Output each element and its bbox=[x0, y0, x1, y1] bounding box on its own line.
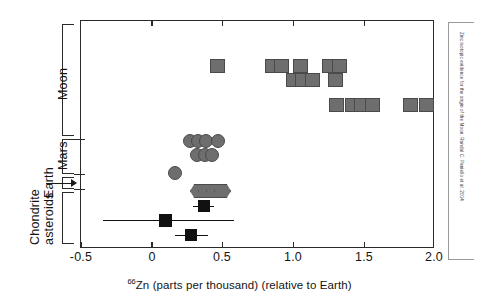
xtick-label-2.0: 2.0 bbox=[425, 250, 443, 264]
group-label-mars: Mars bbox=[56, 141, 70, 170]
xtick-label-1.5: 1.5 bbox=[355, 250, 373, 264]
data-point-chondrite bbox=[198, 200, 210, 212]
data-point-moon bbox=[403, 98, 418, 112]
data-point-moon bbox=[274, 59, 289, 73]
xtick-label-0: 0 bbox=[148, 250, 155, 264]
data-point-moon bbox=[293, 59, 308, 73]
data-point-moon bbox=[305, 73, 320, 87]
data-point-moon bbox=[210, 59, 225, 73]
data-point-moon bbox=[328, 73, 343, 87]
figure-credit-text: Zinc isotopic evidence for the origin of… bbox=[459, 32, 464, 201]
xtick-label-1.0: 1.0 bbox=[284, 250, 302, 264]
isotope-superscript: 66 bbox=[127, 277, 135, 286]
group-label-moon: Moon bbox=[56, 68, 70, 100]
data-point-moon bbox=[365, 98, 380, 112]
data-point-mars bbox=[205, 148, 219, 162]
xtick-label-0.5: 0.5 bbox=[213, 250, 231, 264]
data-point-moon bbox=[332, 59, 347, 73]
earth-arrow-head bbox=[71, 179, 77, 187]
data-point-moon bbox=[419, 98, 434, 112]
xtick-label--0.5: -0.5 bbox=[70, 250, 92, 264]
data-point-chondrite bbox=[185, 229, 197, 241]
data-point-chondrite bbox=[159, 214, 172, 227]
bracket-chondrite-asteroids bbox=[62, 192, 74, 244]
group-label-asteroids: asteroids bbox=[42, 192, 56, 245]
x-axis-title: 66Zn (parts per thousand) (relative to E… bbox=[0, 277, 479, 291]
data-point-moon bbox=[329, 98, 344, 112]
plot-data-area bbox=[80, 20, 434, 248]
data-point-mars bbox=[211, 134, 225, 148]
x-axis-title-text: Zn (parts per thousand) (relative to Ear… bbox=[136, 279, 352, 291]
earth-arrow-line bbox=[46, 183, 72, 184]
data-point-mars bbox=[168, 166, 182, 180]
zinc-isotope-scatter-figure: -0.5 0 0.5 1.0 1.5 2.0 66Zn (parts per t… bbox=[0, 0, 479, 307]
group-label-chondrite: Chondrite bbox=[28, 189, 42, 245]
